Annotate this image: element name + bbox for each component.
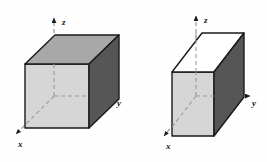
figure-canvas: z y x z y (0, 0, 267, 162)
three-d-boxes-figure: z y x z y (0, 0, 267, 162)
right-x-axis-label: x (165, 141, 171, 151)
right-box-front-face (172, 72, 214, 136)
left-z-axis-label: z (61, 17, 66, 27)
left-x-axis-label: x (17, 139, 23, 149)
right-z-axis-label: z (203, 15, 208, 25)
